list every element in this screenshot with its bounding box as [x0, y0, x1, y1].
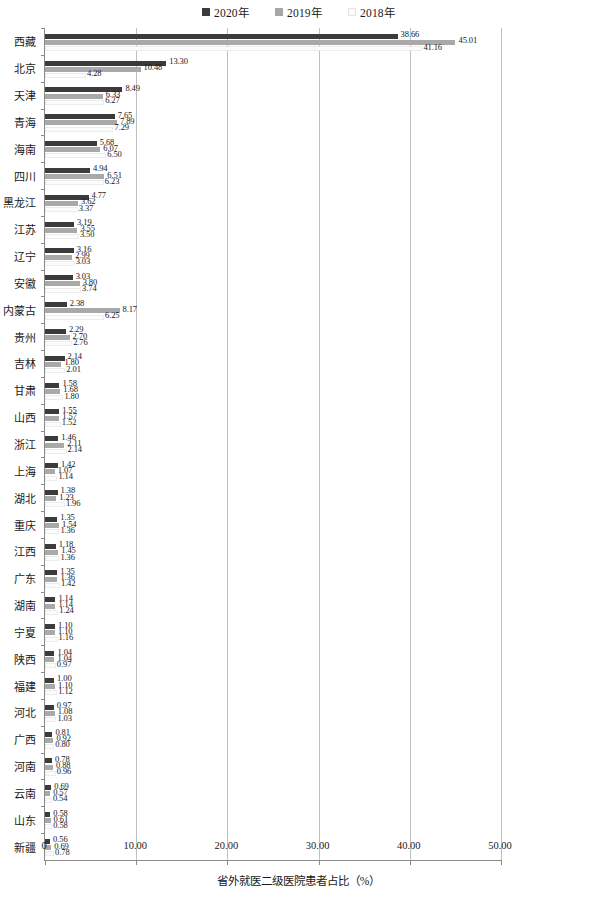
bar-2020-内蒙古 — [45, 302, 67, 307]
category-tick — [41, 109, 45, 110]
category-label: 陕西 — [14, 651, 36, 667]
x-axis-tick-label: 40.00 — [397, 840, 421, 851]
legend-swatch-2018-icon — [348, 8, 356, 16]
bar-2018-黑龙江 — [45, 207, 78, 212]
gridline — [501, 28, 502, 860]
category-label: 西藏 — [14, 33, 36, 49]
bar-2020-宁夏 — [45, 624, 55, 629]
bar-2020-西藏 — [45, 34, 398, 39]
category-label: 浙江 — [14, 436, 36, 452]
gridline — [319, 28, 320, 860]
bar-value-label: 0.97 — [55, 662, 71, 667]
bar-2019-海南 — [45, 147, 100, 152]
bar-2019-宁夏 — [45, 630, 55, 635]
category-label: 青海 — [14, 114, 36, 130]
bar-value-label: 0.78 — [53, 850, 69, 855]
category-label: 湖北 — [14, 490, 36, 506]
bar-2020-广西 — [45, 732, 52, 737]
bar-value-label: 1.36 — [58, 555, 74, 560]
category-label: 四川 — [14, 168, 36, 184]
bar-value-label: 4.28 — [85, 71, 101, 76]
bar-value-label: 3.37 — [77, 206, 93, 211]
category-label: 黑龙江 — [3, 194, 36, 210]
bar-2018-广东 — [45, 583, 60, 588]
x-axis-tick — [136, 860, 137, 865]
category-tick — [41, 431, 45, 432]
bar-2018-北京 — [45, 73, 86, 78]
bar-value-label: 3.50 — [78, 232, 94, 237]
bar-2019-江西 — [45, 550, 58, 555]
plot-area: 38.6645.0141.1613.3010.484.288.496.336.2… — [44, 28, 501, 861]
category-label: 湖南 — [14, 597, 36, 613]
legend-swatch-2019-icon — [275, 8, 283, 16]
category-label: 安徽 — [14, 275, 36, 291]
bar-2019-湖北 — [45, 496, 56, 501]
legend-item-2018: 2018年 — [348, 4, 395, 20]
category-label: 天津 — [14, 87, 36, 103]
category-tick — [41, 779, 45, 780]
category-label: 山西 — [14, 409, 36, 425]
x-axis-tick — [319, 860, 320, 865]
bar-value-label: 2.38 — [68, 301, 84, 306]
bar-2019-吉林 — [45, 362, 61, 367]
bar-value-label: 8.17 — [121, 307, 137, 312]
category-tick — [41, 618, 45, 619]
category-tick — [41, 55, 45, 56]
bar-value-label: 0.80 — [53, 742, 69, 747]
bar-2018-内蒙古 — [45, 315, 104, 320]
category-label: 河北 — [14, 704, 36, 720]
bar-value-label: 0.96 — [55, 769, 71, 774]
x-axis-tick-label: 10.00 — [123, 840, 147, 851]
category-label: 新疆 — [14, 839, 36, 855]
x-axis-tick — [45, 860, 46, 865]
category-label: 云南 — [14, 785, 36, 801]
category-tick — [41, 645, 45, 646]
bar-2019-福建 — [45, 684, 55, 689]
bar-value-label: 1.80 — [62, 394, 78, 399]
legend-item-2019: 2019年 — [275, 4, 322, 20]
category-label: 广西 — [14, 731, 36, 747]
category-tick — [41, 565, 45, 566]
bar-2019-陕西 — [45, 657, 54, 662]
category-label: 广东 — [14, 570, 36, 586]
x-axis-tick-label: 30.00 — [306, 840, 330, 851]
category-tick — [41, 216, 45, 217]
bar-2019-湖南 — [45, 604, 55, 609]
bar-value-label: 2.76 — [71, 340, 87, 345]
bar-value-label: 6.25 — [103, 313, 119, 318]
bar-2020-甘肃 — [45, 383, 59, 388]
bar-2019-贵州 — [45, 335, 70, 340]
bar-2020-江西 — [45, 544, 56, 549]
category-label: 宁夏 — [14, 624, 36, 640]
bar-2019-安徽 — [45, 281, 80, 286]
bar-value-label: 1.14 — [56, 474, 72, 479]
gridline — [227, 28, 228, 860]
bar-2019-青海 — [45, 120, 117, 125]
category-tick — [41, 82, 45, 83]
category-tick — [41, 162, 45, 163]
bar-2020-广东 — [45, 570, 57, 575]
bar-2019-上海 — [45, 469, 55, 474]
category-label: 贵州 — [14, 329, 36, 345]
bar-2019-广西 — [45, 738, 53, 743]
bar-2018-辽宁 — [45, 261, 75, 266]
bar-2020-福建 — [45, 678, 54, 683]
bar-2020-贵州 — [45, 329, 66, 334]
bar-2018-西藏 — [45, 46, 422, 51]
category-tick — [41, 833, 45, 834]
bar-2018-安徽 — [45, 288, 81, 293]
category-tick — [41, 243, 45, 244]
bar-2020-湖南 — [45, 597, 55, 602]
bar-2020-河南 — [45, 758, 52, 763]
category-tick — [41, 377, 45, 378]
category-label: 甘肃 — [14, 382, 36, 398]
category-tick — [41, 753, 45, 754]
bar-2019-天津 — [45, 94, 103, 99]
bar-2020-山东 — [45, 812, 50, 817]
bar-2019-西藏 — [45, 40, 455, 45]
gridline — [136, 28, 137, 860]
legend-label-2018: 2018年 — [360, 4, 395, 20]
bar-2020-重庆 — [45, 517, 57, 522]
legend-swatch-2020-icon — [202, 8, 210, 16]
category-tick — [41, 323, 45, 324]
